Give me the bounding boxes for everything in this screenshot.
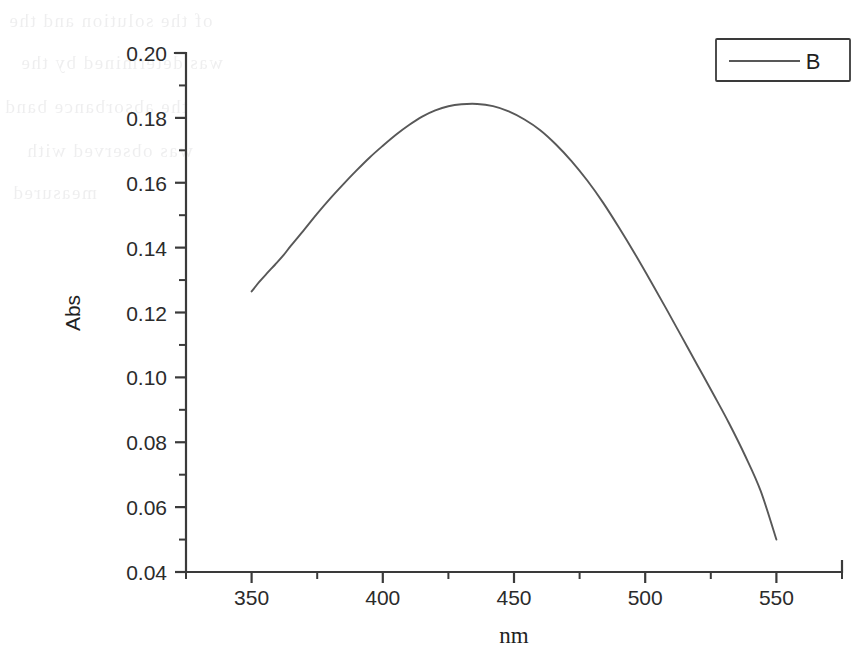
absorption-spectrum-chart: 0.040.060.080.100.120.140.160.180.20 350…: [40, 16, 789, 635]
y-tick-label: 0.16: [126, 172, 167, 195]
y-tick-label: 0.12: [126, 302, 167, 325]
x-tick-label: 350: [234, 586, 269, 609]
x-axis-tick-labels: 350400450500550: [234, 586, 794, 609]
chart-legend: B: [716, 39, 850, 81]
y-tick-label: 0.20: [126, 42, 167, 65]
x-axis-title: nm: [499, 623, 529, 648]
plot-area: 0.040.060.080.100.120.140.160.180.20 350…: [40, 16, 855, 651]
y-axis-title: Abs: [61, 295, 84, 331]
legend-entry-label: B: [806, 49, 821, 74]
y-tick-label: 0.18: [126, 107, 167, 130]
x-tick-label: 550: [759, 586, 794, 609]
y-tick-label: 0.04: [126, 561, 167, 584]
x-tick-label: 400: [365, 586, 400, 609]
y-tick-label: 0.06: [126, 496, 167, 519]
series-line-B: [252, 104, 777, 540]
y-axis-tick-labels: 0.040.060.080.100.120.140.160.180.20: [126, 42, 167, 584]
x-tick-label: 500: [628, 586, 663, 609]
y-tick-label: 0.10: [126, 366, 167, 389]
y-tick-label: 0.14: [126, 237, 167, 260]
x-tick-label: 450: [496, 586, 531, 609]
legend-box: [716, 39, 850, 81]
x-axis-line: [186, 561, 842, 572]
y-tick-label: 0.08: [126, 431, 167, 454]
x-axis-ticks: [186, 572, 842, 583]
data-series-group: [252, 104, 777, 540]
y-axis-ticks: [175, 53, 186, 572]
